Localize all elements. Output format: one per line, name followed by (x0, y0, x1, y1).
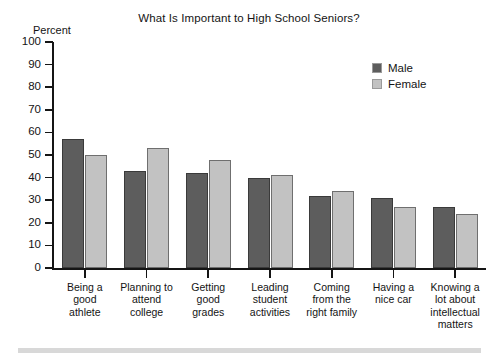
y-axis-tick-label: 20 (7, 216, 41, 228)
bar-male-0 (62, 139, 84, 268)
y-axis-tick-label: 60 (7, 125, 41, 137)
y-axis-tick-label: 70 (7, 103, 41, 115)
x-axis-tick (207, 270, 209, 278)
x-axis-category-label-line: Coming (298, 281, 366, 293)
x-axis-category-label-line: attend (113, 293, 181, 305)
x-axis-category-label: Knowing alot aboutintellectualmatters (421, 281, 489, 331)
x-axis-tick (393, 270, 395, 278)
y-axis-tick-label: 90 (7, 58, 41, 70)
y-axis-tick-label: 30 (7, 193, 41, 205)
legend-item-female[interactable]: Female (372, 78, 426, 90)
x-axis-category-label: Planning toattendcollege (113, 281, 181, 318)
y-axis-tick (45, 109, 53, 111)
bar-female-4 (332, 191, 354, 268)
bar-chart: What Is Important to High School Seniors… (0, 0, 498, 359)
y-axis-tick (45, 177, 53, 179)
bar-male-2 (186, 173, 208, 268)
x-axis-category-label: Being agoodathlete (51, 281, 119, 318)
x-axis-category-label: Gettinggoodgrades (174, 281, 242, 318)
x-axis-category-label-line: Planning to (113, 281, 181, 293)
chart-title: What Is Important to High School Seniors… (0, 12, 498, 24)
bar-male-5 (371, 198, 393, 268)
x-axis-category-label-line: Getting (174, 281, 242, 293)
x-axis-category-label-line: good (51, 293, 119, 305)
bar-male-6 (433, 207, 455, 268)
x-axis-tick (269, 270, 271, 278)
x-axis-category-label-line: good (174, 293, 242, 305)
bar-female-5 (394, 207, 416, 268)
x-axis-category-label-line: Having a (359, 281, 427, 293)
y-axis-tick-label: 50 (7, 148, 41, 160)
x-axis-category-label-line: nice car (359, 293, 427, 305)
y-axis-tick-label: 40 (7, 171, 41, 183)
x-axis-tick (331, 270, 333, 278)
x-axis-category-label-line: lot about (421, 293, 489, 305)
x-axis-category-label: Having anice car (359, 281, 427, 306)
x-axis-category-label-line: intellectual (421, 306, 489, 318)
bar-female-0 (85, 155, 107, 268)
y-axis-tick (45, 267, 53, 269)
x-axis-category-label-line: Leading (236, 281, 304, 293)
x-axis-category-label-line: college (113, 306, 181, 318)
x-axis-tick (84, 270, 86, 278)
x-axis-category-label-line: grades (174, 306, 242, 318)
y-axis-tick-label: 100 (7, 35, 41, 47)
y-axis-tick (45, 154, 53, 156)
bar-male-3 (248, 178, 270, 268)
x-axis-category-label-line: Being a (51, 281, 119, 293)
x-axis-category-label: Comingfrom theright family (298, 281, 366, 318)
x-axis-category-label-line: right family (298, 306, 366, 318)
legend-label-male: Male (388, 62, 413, 74)
x-axis-tick (146, 270, 148, 278)
legend-swatch-female-icon (372, 79, 382, 89)
x-axis-category-label-line: matters (421, 318, 489, 330)
x-axis-tick (454, 270, 456, 278)
y-axis-tick-label: 10 (7, 238, 41, 250)
y-axis-tick (45, 64, 53, 66)
bar-male-1 (124, 171, 146, 268)
x-axis-category-label-line: from the (298, 293, 366, 305)
legend-item-male[interactable]: Male (372, 62, 426, 74)
y-axis-tick (45, 41, 53, 43)
bottom-rule (18, 348, 481, 353)
legend: Male Female (372, 62, 426, 94)
legend-swatch-male-icon (372, 63, 382, 73)
bar-female-6 (456, 214, 478, 268)
y-axis-tick-label: 0 (7, 261, 41, 273)
bar-female-3 (271, 175, 293, 268)
x-axis-category-label-line: Knowing a (421, 281, 489, 293)
y-axis-tick (45, 199, 53, 201)
bar-male-4 (309, 196, 331, 268)
y-axis-tick-label: 80 (7, 80, 41, 92)
bar-female-1 (147, 148, 169, 268)
legend-label-female: Female (388, 78, 426, 90)
x-axis-category-label-line: activities (236, 306, 304, 318)
x-axis-category-label: Leadingstudentactivities (236, 281, 304, 318)
x-axis-category-label-line: athlete (51, 306, 119, 318)
y-axis-tick (45, 245, 53, 247)
x-axis-category-label-line: student (236, 293, 304, 305)
y-axis-tick (45, 222, 53, 224)
y-axis-tick (45, 132, 53, 134)
y-axis-tick (45, 86, 53, 88)
bar-female-2 (209, 160, 231, 268)
